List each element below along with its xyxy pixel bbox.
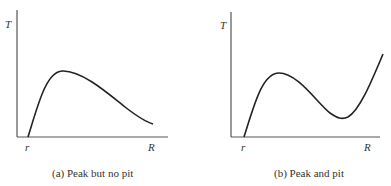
panel-a: T r R (a) Peak but no pit xyxy=(5,10,168,180)
curve xyxy=(28,71,153,137)
x-start-label: r xyxy=(241,141,246,153)
caption: (b) Peak and pit xyxy=(274,167,344,180)
caption: (a) Peak but no pit xyxy=(52,167,133,180)
curve xyxy=(244,54,383,137)
panel-b: T r R (b) Peak and pit xyxy=(220,12,383,180)
x-start-label: r xyxy=(25,141,30,153)
y-axis-label: T xyxy=(220,19,227,31)
x-end-label: R xyxy=(147,141,155,153)
x-end-label: R xyxy=(363,141,371,153)
y-axis-label: T xyxy=(5,18,12,30)
diagram-canvas: T r R (a) Peak but no pit T r R (b) Peak… xyxy=(0,0,391,186)
